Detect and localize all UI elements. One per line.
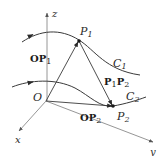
c1-label: C1 [113,57,127,71]
vector-diagram: z x y O P1 P2 C1 C2 OP1 OP2 P1P2 [0,0,163,156]
op1-label: OP1 [30,53,51,66]
point-p1 [77,39,81,43]
z-axis-label: z [51,8,58,19]
p2-label: P2 [116,110,130,124]
p1p2-label: P1P2 [104,76,129,89]
p1-label: P1 [79,25,93,39]
vector-op1 [46,42,78,101]
origin-label: O [33,91,42,104]
point-p2 [111,104,115,108]
curve-c2-arrow [30,82,33,83]
y-axis-label: y [149,146,156,156]
x-axis [19,101,46,131]
op2-label: OP2 [80,112,101,125]
c2-label: C2 [126,90,140,104]
vector-p1p2 [79,41,112,105]
x-axis-label: x [15,134,21,145]
